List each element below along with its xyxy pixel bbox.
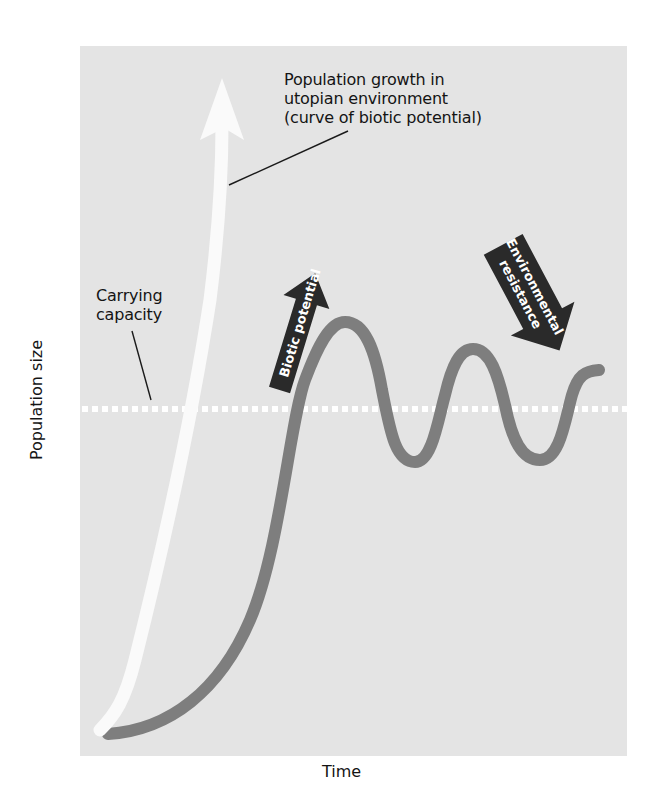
utopian-leader-line (229, 131, 348, 185)
environmental-resistance-arrow: Environmental resistance (471, 226, 592, 367)
population-growth-diagram: Biotic potential Environmental resistanc… (0, 0, 651, 804)
y-axis-label: Population size (27, 340, 46, 460)
carrying-capacity-line-2: capacity (96, 305, 162, 324)
carrying-capacity-leader-line (132, 331, 151, 400)
actual-population-curve (108, 322, 599, 734)
utopian-annotation-line-3: (curve of biotic potential) (284, 108, 544, 127)
utopian-annotation-line-1: Population growth in (284, 70, 544, 89)
carrying-capacity-annotation: Carrying capacity (96, 286, 162, 324)
utopian-growth-annotation: Population growth in utopian environment… (284, 70, 544, 127)
utopian-annotation-line-2: utopian environment (284, 89, 544, 108)
utopian-growth-curve (100, 125, 222, 730)
carrying-capacity-line-1: Carrying (96, 286, 162, 305)
x-axis-label: Time (322, 762, 361, 781)
